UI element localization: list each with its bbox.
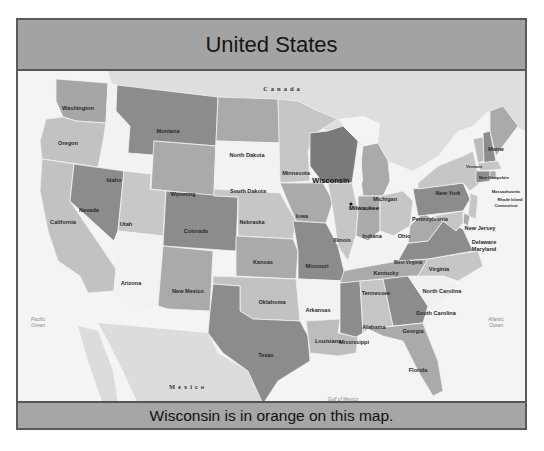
label-arkansas: Arkansas xyxy=(305,307,330,313)
label-texas: Texas xyxy=(258,352,273,358)
label-kentucky: Kentucky xyxy=(373,270,399,276)
state-wyoming[interactable] xyxy=(151,141,216,196)
us-map: Canada Mexico Pacific Ocean Atlantic Oce… xyxy=(18,71,525,404)
label-south-carolina: South Carolina xyxy=(416,310,457,316)
label-north-dakota: North Dakota xyxy=(229,152,265,158)
state-washington[interactable] xyxy=(56,79,108,123)
label-colorado: Colorado xyxy=(184,228,209,234)
state-wisconsin[interactable] xyxy=(310,126,358,183)
label-idaho: Idaho xyxy=(107,177,122,183)
label-wyoming: Wyoming xyxy=(170,191,196,197)
label-mexico: Mexico xyxy=(169,383,207,390)
map-area: Canada Mexico Pacific Ocean Atlantic Oce… xyxy=(18,71,525,404)
label-indiana: Indiana xyxy=(362,233,382,239)
label-kansas: Kansas xyxy=(253,259,273,265)
label-new-hampshire: New Hampshire xyxy=(479,175,510,180)
label-maryland: Maryland xyxy=(472,246,497,252)
label-alabama: Alabama xyxy=(362,324,386,330)
label-ohio: Ohio xyxy=(398,233,411,239)
map-frame: United States xyxy=(16,18,527,430)
label-missouri: Missouri xyxy=(305,263,328,269)
label-wisconsin: Wisconsin xyxy=(312,176,350,185)
label-georgia: Georgia xyxy=(402,328,424,334)
label-mississippi: Mississippi xyxy=(339,339,370,345)
label-michigan: Michigan xyxy=(373,196,398,202)
label-louisiana: Louisiana xyxy=(315,338,342,344)
label-tennessee: Tennessee xyxy=(362,290,391,296)
label-connecticut: Connecticut xyxy=(494,203,518,208)
label-pacific-1: Pacific xyxy=(31,317,46,322)
label-canada: Canada xyxy=(263,85,303,92)
label-pacific-2: Ocean xyxy=(31,323,45,328)
label-washington: Washington xyxy=(62,105,94,111)
label-montana: Montana xyxy=(157,128,181,134)
label-new-york: New York xyxy=(436,190,462,196)
label-california: California xyxy=(50,219,77,225)
title-band: United States xyxy=(18,20,525,71)
label-west-virginia: West Virginia xyxy=(394,260,423,265)
label-north-carolina: North Carolina xyxy=(423,288,463,294)
label-nebraska: Nebraska xyxy=(239,219,265,225)
state-mississippi[interactable] xyxy=(340,281,363,337)
label-rhode-island: Rhode Island xyxy=(497,197,523,202)
label-atlantic-2: Ocean xyxy=(489,323,503,328)
label-oklahoma: Oklahoma xyxy=(258,299,286,305)
label-florida: Florida xyxy=(409,367,429,373)
label-milwaukee: Milwaukee xyxy=(349,205,380,211)
label-massachusetts: Massachusetts xyxy=(492,189,521,194)
map-caption: Wisconsin is in orange on this map. xyxy=(150,407,394,425)
label-maine: Maine xyxy=(488,146,504,152)
label-virginia: Virginia xyxy=(429,266,450,272)
label-minnesota: Minnesota xyxy=(282,170,311,176)
state-kansas[interactable] xyxy=(236,236,298,279)
caption-band: Wisconsin is in orange on this map. xyxy=(18,401,525,428)
label-new-mexico: New Mexico xyxy=(172,288,205,294)
label-iowa: Iowa xyxy=(296,213,309,219)
state-north-dakota[interactable] xyxy=(216,97,280,143)
state-colorado[interactable] xyxy=(163,191,238,251)
label-arizona: Arizona xyxy=(121,280,142,286)
label-new-jersey: New Jersey xyxy=(465,225,497,231)
label-oregon: Oregon xyxy=(58,140,78,146)
label-utah: Utah xyxy=(120,221,133,227)
label-illinois: Illinois xyxy=(333,237,351,243)
state-new-mexico[interactable] xyxy=(158,246,213,311)
label-delaware: Delaware xyxy=(472,239,497,245)
page-title: United States xyxy=(205,32,337,58)
state-south-dakota[interactable] xyxy=(214,141,280,193)
label-nevada: Nevada xyxy=(79,207,100,213)
label-south-dakota: South Dakota xyxy=(230,188,267,194)
label-vermont: Vermont xyxy=(466,164,483,169)
label-pennsylvania: Pennsylvania xyxy=(412,216,449,222)
label-atlantic-1: Atlantic xyxy=(487,317,504,322)
